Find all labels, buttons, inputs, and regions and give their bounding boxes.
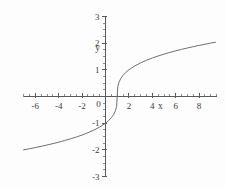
x-tick-label: 2 <box>127 101 132 111</box>
y-axis-label: y <box>95 43 100 53</box>
y-tick-label: 1 <box>95 65 100 75</box>
x-tick-label: -6 <box>32 101 40 111</box>
y-tick-label: 3 <box>95 12 100 22</box>
x-tick-label: 4 <box>150 101 155 111</box>
x-axis-label: x <box>158 101 163 111</box>
x-tick-label: 8 <box>197 101 202 111</box>
y-tick-label: -3 <box>92 172 100 182</box>
plot-canvas: -6-4-202468 -3-2-1123 x y <box>0 0 225 187</box>
y-tick-label: -1 <box>92 118 100 128</box>
x-tick-label-origin: 0 <box>96 99 101 109</box>
x-tick-label: -4 <box>55 101 63 111</box>
x-tick-label: 6 <box>173 101 178 111</box>
y-tick-label: -2 <box>92 145 100 155</box>
x-tick-label: -2 <box>78 101 86 111</box>
chart-figure: -6-4-202468 -3-2-1123 x y <box>0 0 225 187</box>
